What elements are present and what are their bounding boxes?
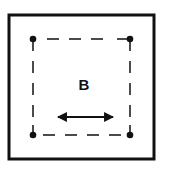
region-label: B [79, 76, 90, 93]
corner-point-top-right [127, 36, 134, 43]
corner-point-bottom-left [30, 132, 37, 139]
corner-point-bottom-right [127, 132, 134, 139]
diagram: B [0, 0, 169, 173]
corner-point-top-left [30, 36, 37, 43]
